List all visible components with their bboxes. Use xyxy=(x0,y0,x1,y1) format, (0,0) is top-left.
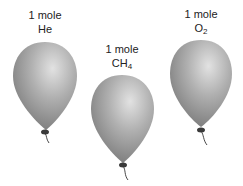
balloon-o2 xyxy=(170,40,232,145)
balloon-ch4 xyxy=(91,75,154,180)
label-o2: 1 mole O2 xyxy=(166,7,236,35)
formula-text: O2 xyxy=(166,21,236,35)
amount-text: 1 mole xyxy=(166,7,236,21)
string-icon xyxy=(45,133,49,143)
amount-text: 1 mole xyxy=(10,8,80,22)
string-icon xyxy=(201,131,207,145)
formula-text: CH4 xyxy=(87,56,157,70)
label-ch4: 1 mole CH4 xyxy=(87,42,157,70)
balloon-he xyxy=(13,42,77,143)
amount-text: 1 mole xyxy=(87,42,157,56)
string-icon xyxy=(123,166,128,180)
label-he: 1 mole He xyxy=(10,8,80,36)
formula-text: He xyxy=(10,22,80,36)
